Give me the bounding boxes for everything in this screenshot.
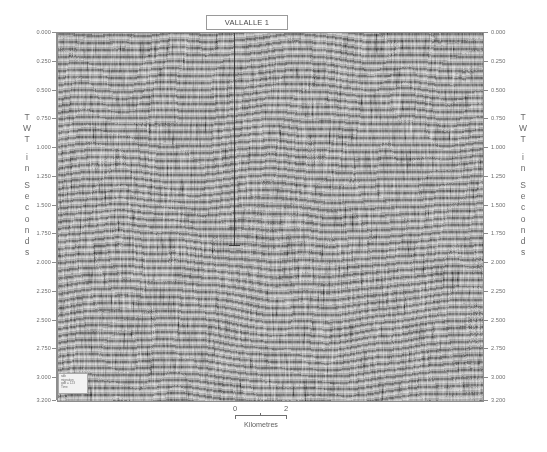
axis-title-letter: d — [20, 236, 34, 247]
right-axis-tick-label: 3.200 — [491, 397, 513, 403]
right-axis-tick — [484, 147, 488, 148]
right-axis-tick — [484, 233, 488, 234]
right-axis-tick-label: 2.250 — [491, 288, 513, 294]
axis-title-letter: T — [516, 112, 530, 123]
left-axis-tick-label: 1.750 — [31, 230, 51, 236]
scale-unit-label: Kilometres — [236, 420, 286, 429]
right-axis-tick-label: 0.500 — [491, 87, 513, 93]
axis-title-letter: W — [516, 123, 530, 134]
section-title-label: VALLALLE 1 — [225, 18, 269, 27]
left-axis-tick-label: 0.000 — [31, 29, 51, 35]
right-axis-tick-label: 0.250 — [491, 58, 513, 64]
left-axis-tick-label: 0.500 — [31, 87, 51, 93]
scale-end-label: 2 — [280, 404, 292, 413]
scale-tick-end — [286, 415, 287, 419]
axis-title-letter: d — [516, 236, 530, 247]
seismic-section-panel[interactable] — [57, 32, 484, 402]
axis-title-letter: W — [20, 123, 34, 134]
right-axis-tick-label: 3.000 — [491, 374, 513, 380]
axis-title-letter: i — [20, 152, 34, 163]
scale-tick-start — [235, 415, 236, 419]
axis-title-letter: o — [516, 214, 530, 225]
left-axis-tick — [52, 348, 56, 349]
section-title-box: VALLALLE 1 — [206, 15, 288, 30]
right-axis-tick — [484, 176, 488, 177]
left-axis-tick-label: 0.750 — [31, 115, 51, 121]
right-axis-tick — [484, 320, 488, 321]
left-axis-tick — [52, 400, 56, 401]
left-axis-tick — [52, 205, 56, 206]
left-axis-tick-label: 3.200 — [31, 397, 51, 403]
right-axis-tick — [484, 400, 488, 401]
right-axis-tick-label: 0.750 — [491, 115, 513, 121]
right-axis-spine — [483, 32, 484, 400]
left-axis-tick-label: 2.500 — [31, 317, 51, 323]
well-track-bottom-tick — [229, 245, 240, 246]
axis-title-letter: T — [516, 134, 530, 145]
axis-title-letter: i — [516, 152, 530, 163]
left-axis-tick — [52, 320, 56, 321]
left-axis-tick-label: 2.000 — [31, 259, 51, 265]
right-axis-tick-label: 1.500 — [491, 202, 513, 208]
right-axis-tick — [484, 61, 488, 62]
axis-title-letter: n — [516, 225, 530, 236]
axis-title-letter: S — [20, 180, 34, 191]
well-track-line — [234, 33, 235, 246]
axis-title-letter: o — [20, 214, 34, 225]
right-axis-tick-label: 2.500 — [491, 317, 513, 323]
left-axis-tick — [52, 291, 56, 292]
right-axis-tick-label: 1.000 — [491, 144, 513, 150]
right-axis-tick — [484, 90, 488, 91]
left-axis-tick-label: 2.250 — [31, 288, 51, 294]
left-axis-tick-label: 3.000 — [31, 374, 51, 380]
axis-title-letter: s — [516, 247, 530, 258]
right-axis-tick-label: 1.250 — [491, 173, 513, 179]
left-axis-spine — [56, 32, 57, 400]
left-axis-title: TWTinSeconds — [20, 112, 34, 258]
right-axis-tick-label: 1.750 — [491, 230, 513, 236]
right-axis-tick — [484, 118, 488, 119]
axis-title-letter: S — [516, 180, 530, 191]
right-axis-tick-label: 2.750 — [491, 345, 513, 351]
left-axis-tick-label: 1.000 — [31, 144, 51, 150]
right-axis-tick-label: 0.000 — [491, 29, 513, 35]
right-axis-tick — [484, 32, 488, 33]
scale-start-label: 0 — [229, 404, 241, 413]
right-axis-title: TWTinSeconds — [516, 112, 530, 258]
left-axis-tick-label: 1.250 — [31, 173, 51, 179]
left-axis-tick — [52, 90, 56, 91]
left-axis-tick-label: 0.250 — [31, 58, 51, 64]
right-axis-tick — [484, 262, 488, 263]
right-axis-tick — [484, 377, 488, 378]
left-axis-tick — [52, 61, 56, 62]
left-axis-tick — [52, 32, 56, 33]
left-axis-tick-label: 2.750 — [31, 345, 51, 351]
right-axis-tick — [484, 205, 488, 206]
axis-title-letter: e — [516, 191, 530, 202]
processing-info-stamp: sdb migration gdb = 123 Time — [58, 373, 88, 394]
left-axis-tick — [52, 233, 56, 234]
info-line-4: Time — [61, 386, 86, 390]
left-axis-tick — [52, 377, 56, 378]
left-axis-tick — [52, 176, 56, 177]
left-axis-tick — [52, 118, 56, 119]
right-axis-tick-label: 2.000 — [491, 259, 513, 265]
right-axis-tick — [484, 348, 488, 349]
right-axis-tick — [484, 291, 488, 292]
axis-title-letter: n — [516, 163, 530, 174]
seismic-image — [58, 33, 483, 401]
axis-title-letter: c — [516, 202, 530, 213]
left-axis-tick — [52, 262, 56, 263]
left-axis-tick — [52, 147, 56, 148]
left-axis-tick-label: 1.500 — [31, 202, 51, 208]
scale-line — [235, 415, 286, 416]
axis-title-letter: s — [20, 247, 34, 258]
